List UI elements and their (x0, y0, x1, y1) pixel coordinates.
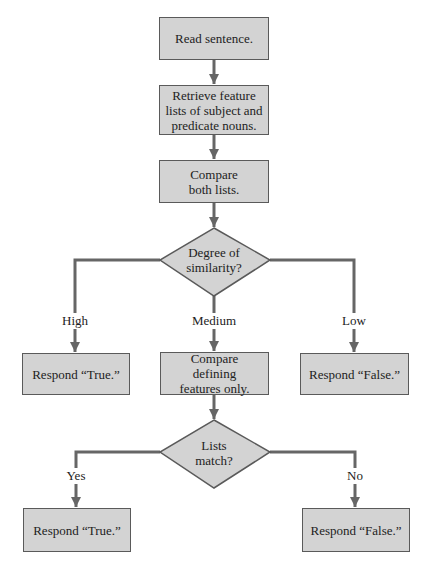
node-respond-false-no: Respond “False.” (302, 508, 410, 552)
node-respond-false-low: Respond “False.” (300, 353, 409, 395)
node-compare-both-lists: Compare both lists. (159, 160, 269, 203)
edge-label-medium: Medium (188, 313, 240, 329)
edge-label-no: No (343, 468, 367, 484)
node-compare-defining-features: Compare defining features only. (160, 352, 269, 395)
node-read-sentence: Read sentence. (159, 17, 269, 60)
decision-lists-match-label: Lists match? (186, 436, 242, 470)
node-retrieve-feature-lists: Retrieve feature lists of subject and pr… (159, 85, 269, 135)
node-respond-true-high: Respond “True.” (22, 353, 130, 395)
decision-degree-label: Degree of similarity? (174, 242, 254, 278)
edge-label-low: Low (340, 313, 368, 329)
edge-label-high: High (58, 313, 92, 329)
edge-label-yes: Yes (62, 468, 90, 484)
node-respond-true-yes: Respond “True.” (23, 508, 131, 552)
